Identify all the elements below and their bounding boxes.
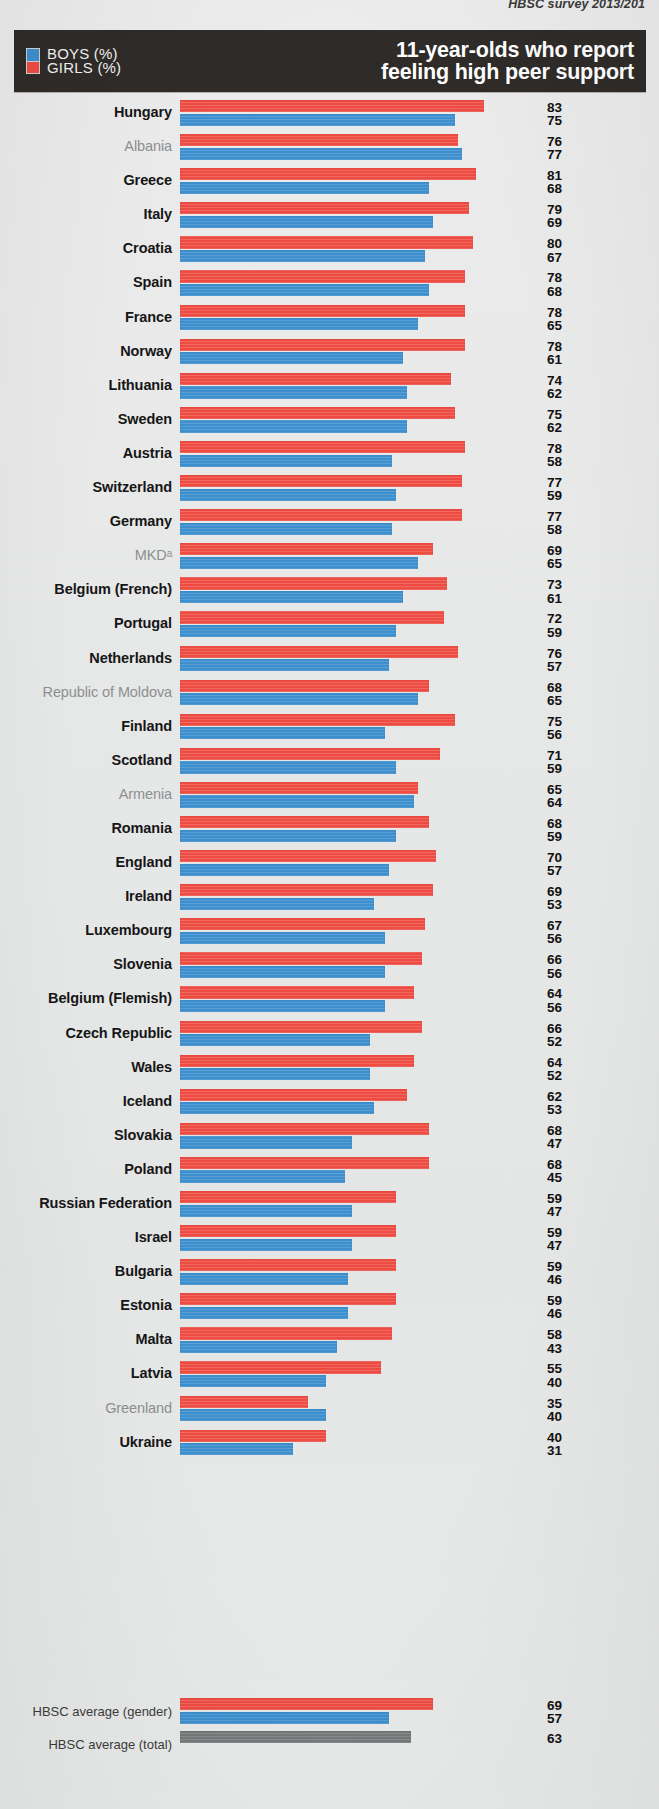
country-label: Scotland (0, 752, 172, 768)
row-bars (180, 509, 462, 535)
value-boys: 56 (500, 932, 562, 945)
row-values: 7556 (500, 715, 562, 741)
bar-boys (180, 591, 403, 603)
country-label: Poland (0, 1161, 172, 1177)
row-bars (180, 1430, 326, 1456)
value-boys: 45 (500, 1171, 562, 1184)
legend: BOYS (%) GIRLS (%) (26, 47, 121, 76)
row-bars (180, 339, 465, 365)
country-label: Russian Federation (0, 1195, 172, 1211)
row-values: 7861 (500, 340, 562, 366)
country-label: Iceland (0, 1093, 172, 1109)
row-values: 7858 (500, 442, 562, 468)
row-values: 7868 (500, 271, 562, 297)
chart-row: Russian Federation5947 (0, 1187, 659, 1221)
chart-plot-area: Hungary8375Albania7677Greece8168Italy796… (0, 96, 659, 1460)
chart-row: Bulgaria5946 (0, 1255, 659, 1289)
footer-bars-gender (180, 1698, 433, 1724)
footer-value-boys: 57 (500, 1712, 562, 1725)
chart-row: Netherlands7657 (0, 642, 659, 676)
row-values: 6456 (500, 987, 562, 1013)
row-bars (180, 1055, 414, 1081)
footer-bar-total (180, 1731, 411, 1743)
row-bars (180, 270, 465, 296)
row-bars (180, 884, 433, 910)
bar-boys (180, 1136, 352, 1148)
bar-boys (180, 727, 385, 739)
row-values: 6656 (500, 953, 562, 979)
value-boys: 47 (500, 1205, 562, 1218)
row-values: 7259 (500, 612, 562, 638)
bar-boys (180, 216, 433, 228)
row-values: 7969 (500, 203, 562, 229)
value-girls: 78 (500, 306, 562, 319)
row-bars (180, 441, 465, 467)
country-label: Greece (0, 172, 172, 188)
country-label: France (0, 309, 172, 325)
bar-boys (180, 1443, 293, 1455)
chart-row: Malta5843 (0, 1323, 659, 1357)
value-boys: 67 (500, 251, 562, 264)
row-values: 7462 (500, 374, 562, 400)
bar-boys (180, 1034, 370, 1046)
legend-swatches (26, 48, 40, 74)
row-values: 6452 (500, 1056, 562, 1082)
country-label: Germany (0, 513, 172, 529)
row-bars (180, 543, 433, 569)
row-values: 7057 (500, 851, 562, 877)
value-boys: 69 (500, 216, 562, 229)
bar-boys (180, 761, 396, 773)
bar-girls (180, 1293, 396, 1305)
value-girls: 62 (500, 1090, 562, 1103)
bar-boys (180, 455, 392, 467)
chart-row: MKDᵃ6965 (0, 539, 659, 573)
row-values: 7865 (500, 306, 562, 332)
bar-boys (180, 114, 455, 126)
legend-labels: BOYS (%) GIRLS (%) (47, 47, 121, 76)
value-boys: 53 (500, 1103, 562, 1116)
row-values: 6953 (500, 885, 562, 911)
chart-row: Austria7858 (0, 437, 659, 471)
country-label: Austria (0, 445, 172, 461)
value-girls: 74 (500, 374, 562, 387)
bar-boys (180, 1205, 352, 1217)
chart-row: Germany7758 (0, 505, 659, 539)
country-label: Israel (0, 1229, 172, 1245)
chart-row: Belgium (French)7361 (0, 573, 659, 607)
chart-row: Sweden7562 (0, 403, 659, 437)
row-bars (180, 1157, 429, 1183)
chart-row: Republic of Moldova6865 (0, 676, 659, 710)
footer-label-total: HBSC average (total) (0, 1737, 172, 1752)
country-label: Croatia (0, 240, 172, 256)
bar-boys (180, 352, 403, 364)
bar-girls (180, 1191, 396, 1203)
value-boys: 56 (500, 967, 562, 980)
bar-girls (180, 270, 465, 282)
row-bars (180, 475, 462, 501)
bar-girls (180, 646, 458, 658)
chart-title-line2: feeling high peer support (381, 61, 634, 83)
row-bars (180, 305, 465, 331)
row-values: 5946 (500, 1294, 562, 1320)
row-bars (180, 577, 447, 603)
bar-girls (180, 373, 451, 385)
row-bars (180, 680, 429, 706)
country-label: Republic of Moldova (0, 684, 172, 700)
value-boys: 64 (500, 796, 562, 809)
footer-values-gender: 69 57 (500, 1699, 562, 1725)
country-label: Norway (0, 343, 172, 359)
country-label: Spain (0, 274, 172, 290)
value-boys: 61 (500, 353, 562, 366)
country-label: Sweden (0, 411, 172, 427)
footer-bar-girls (180, 1698, 433, 1710)
country-label: Hungary (0, 104, 172, 120)
country-label: Malta (0, 1331, 172, 1347)
chart-row: Iceland6253 (0, 1085, 659, 1119)
bar-boys (180, 1341, 337, 1353)
row-values: 8067 (500, 237, 562, 263)
value-girls: 40 (500, 1431, 562, 1444)
row-values: 7361 (500, 578, 562, 604)
bar-girls (180, 134, 458, 146)
bar-boys (180, 625, 396, 637)
bar-boys (180, 693, 418, 705)
